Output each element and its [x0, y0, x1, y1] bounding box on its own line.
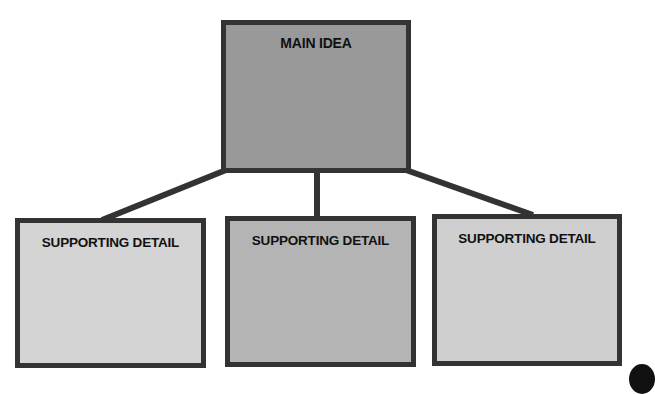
supporting-detail-box-3: SUPPORTING DETAIL: [432, 214, 622, 366]
main-idea-box: MAIN IDEA: [221, 20, 411, 173]
connector-right: [406, 170, 533, 215]
supporting-detail-label-3: SUPPORTING DETAIL: [437, 231, 617, 246]
main-idea-label: MAIN IDEA: [226, 35, 406, 51]
supporting-detail-label-1: SUPPORTING DETAIL: [20, 235, 201, 250]
supporting-detail-label-2: SUPPORTING DETAIL: [230, 233, 411, 248]
supporting-detail-box-2: SUPPORTING DETAIL: [225, 216, 416, 367]
corner-circle-decoration: [629, 364, 655, 394]
supporting-detail-box-1: SUPPORTING DETAIL: [15, 218, 206, 368]
connector-left: [102, 170, 226, 220]
